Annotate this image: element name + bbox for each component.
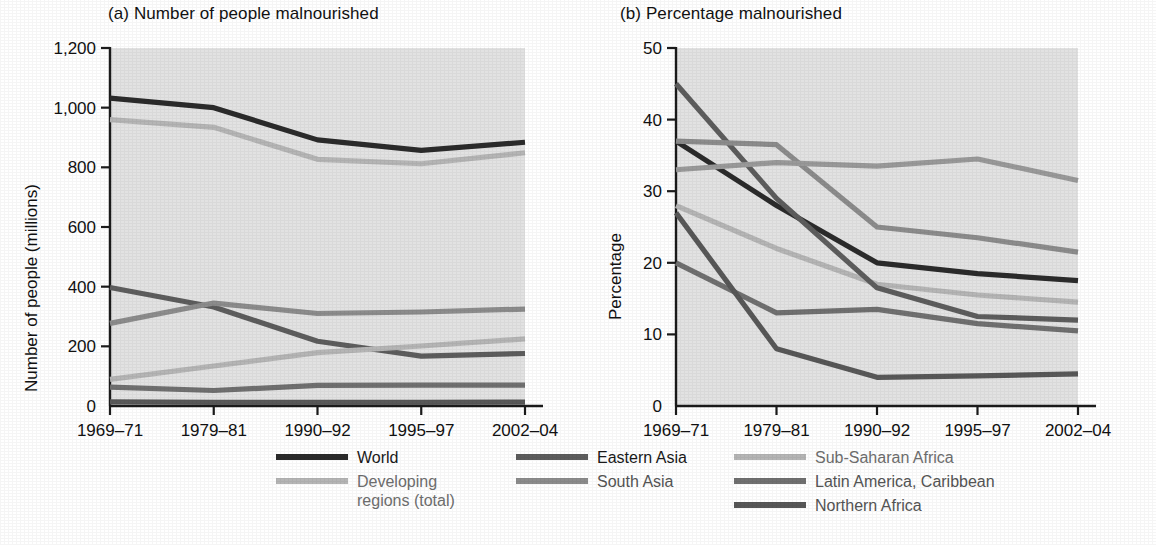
legend-item[interactable]: Latin America, Caribbean [734, 472, 1034, 491]
legend-item-label: Northern Africa [815, 496, 922, 515]
y-axis-tick-label: 0 [653, 397, 662, 416]
series-line [110, 402, 525, 403]
x-axis-tick-label: 1979–81 [743, 421, 809, 440]
y-axis-tick-label: 400 [68, 278, 96, 297]
x-axis-tick-label: 1969–71 [77, 421, 143, 440]
y-axis-tick-label: 1,200 [53, 39, 96, 58]
chart-legend: WorldDeveloping regions (total) Eastern … [0, 448, 1156, 545]
legend-color-swatch [276, 454, 348, 460]
legend-column-3: Sub-Saharan AfricaLatin America, Caribbe… [734, 448, 1034, 520]
legend-item-label: Developing regions (total) [357, 472, 455, 510]
legend-item[interactable]: World [276, 448, 512, 467]
x-axis-tick-label: 2002–04 [492, 421, 558, 440]
y-axis-tick-label: 10 [643, 325, 662, 344]
legend-item-label: Latin America, Caribbean [815, 472, 995, 491]
legend-item[interactable]: South Asia [516, 472, 734, 491]
chart-panel-b: (b) Percentage malnourished Percentage 0… [578, 0, 1156, 445]
chart-panel-a: (a) Number of people malnourished Number… [0, 0, 578, 445]
legend-item-label: World [357, 448, 399, 467]
panel-b-plot: 010203040501969–711979–811990–921995–972… [578, 0, 1156, 445]
legend-item[interactable]: Developing regions (total) [276, 472, 512, 510]
x-axis-tick-label: 1990–92 [844, 421, 910, 440]
legend-column-1: WorldDeveloping regions (total) [276, 448, 512, 515]
x-axis-tick-label: 1995–97 [944, 421, 1010, 440]
legend-item[interactable]: Eastern Asia [516, 448, 734, 467]
legend-color-swatch [516, 454, 588, 460]
legend-color-swatch [734, 478, 806, 484]
y-axis-tick-label: 200 [68, 337, 96, 356]
y-axis-tick-label: 600 [68, 218, 96, 237]
x-axis-tick-label: 2002–04 [1045, 421, 1111, 440]
legend-item[interactable]: Northern Africa [734, 496, 1034, 515]
x-axis-tick-label: 1969–71 [643, 421, 709, 440]
y-axis-tick-label: 50 [643, 39, 662, 58]
y-axis-tick-label: 30 [643, 182, 662, 201]
y-axis-tick-label: 20 [643, 254, 662, 273]
legend-color-swatch [276, 478, 348, 484]
legend-item-label: Sub-Saharan Africa [815, 448, 954, 467]
x-axis-tick-label: 1990–92 [284, 421, 350, 440]
y-axis-tick-label: 40 [643, 111, 662, 130]
legend-item[interactable]: Sub-Saharan Africa [734, 448, 1034, 467]
y-axis-tick-label: 800 [68, 158, 96, 177]
panel-a-plot: 02004006008001,0001,2001969–711979–81199… [0, 0, 578, 445]
legend-item-label: Eastern Asia [597, 448, 687, 467]
legend-color-swatch [516, 478, 588, 484]
figure-malnourishment: (a) Number of people malnourished Number… [0, 0, 1156, 545]
legend-color-swatch [734, 502, 806, 508]
legend-color-swatch [734, 454, 806, 460]
y-axis-tick-label: 0 [87, 397, 96, 416]
x-axis-tick-label: 1995–97 [388, 421, 454, 440]
legend-column-2: Eastern AsiaSouth Asia [516, 448, 734, 496]
y-axis-tick-label: 1,000 [53, 99, 96, 118]
legend-item-label: South Asia [597, 472, 674, 491]
x-axis-tick-label: 1979–81 [181, 421, 247, 440]
